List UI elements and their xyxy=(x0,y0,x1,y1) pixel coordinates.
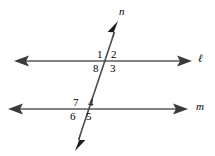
angle-label-7: 7 xyxy=(73,97,79,108)
angle-label-8: 8 xyxy=(93,63,99,74)
angle-label-2: 2 xyxy=(111,49,117,60)
angle-label-3: 3 xyxy=(110,63,116,74)
diagram-canvas xyxy=(0,0,215,156)
line-n-group xyxy=(75,21,118,151)
angle-label-5: 5 xyxy=(86,111,92,122)
angle-label-1: 1 xyxy=(97,49,103,60)
line-label-m: m xyxy=(196,101,204,112)
angle-label-6: 6 xyxy=(70,111,76,122)
angle-label-4: 4 xyxy=(88,97,94,108)
line-label-ell: ℓ xyxy=(198,53,203,64)
line-label-n: n xyxy=(119,6,125,17)
geometry-diagram: n ℓ m 1 2 3 8 7 4 5 6 xyxy=(0,0,215,156)
line-m-group xyxy=(8,104,188,115)
